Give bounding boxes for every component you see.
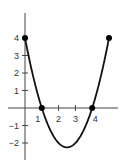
x-tick-label: 4 xyxy=(93,114,98,124)
x-tick-label: 3 xyxy=(73,114,78,124)
x-tick-label: 2 xyxy=(56,114,61,124)
y-tick-label: −1 xyxy=(9,121,19,131)
x-tick-label: 1 xyxy=(35,114,40,124)
data-point-marker xyxy=(22,35,28,41)
curve-series xyxy=(25,38,109,147)
y-tick-label: 2 xyxy=(14,68,19,78)
data-point-marker xyxy=(89,105,95,111)
parabola-line xyxy=(25,38,109,147)
y-tick-label: −2 xyxy=(9,138,19,148)
y-tick-label: 1 xyxy=(14,86,19,96)
parabola-chart: 12344321−1−2 xyxy=(0,0,120,163)
data-point-marker xyxy=(39,105,45,111)
y-tick-label: 4 xyxy=(14,33,19,43)
data-point-marker xyxy=(106,35,112,41)
marked-points xyxy=(22,35,112,111)
y-tick-label: 3 xyxy=(14,51,19,61)
